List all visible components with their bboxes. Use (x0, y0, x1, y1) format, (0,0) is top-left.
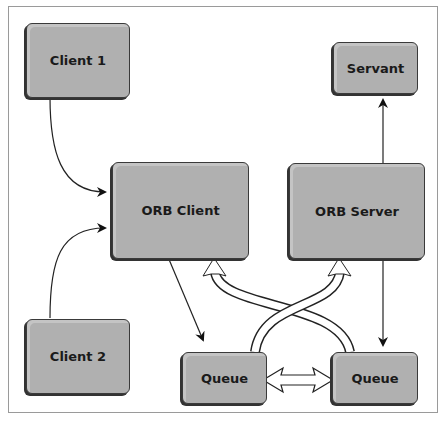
edge-client1-orbclient (50, 97, 105, 192)
node-servant[interactable]: Servant (333, 42, 418, 94)
node-client1[interactable]: Client 1 (26, 23, 130, 98)
edge-orbclient-queue (168, 257, 203, 340)
node-label: Queue (351, 371, 398, 386)
node-queue-right[interactable]: Queue (332, 352, 418, 404)
node-queue-left[interactable]: Queue (182, 352, 267, 404)
node-label: Queue (201, 371, 248, 386)
node-client2[interactable]: Client 2 (26, 319, 130, 394)
node-orb-server[interactable]: ORB Server (289, 163, 425, 259)
node-label: Client 2 (50, 349, 106, 364)
node-label: ORB Client (141, 203, 219, 218)
node-orb-client[interactable]: ORB Client (112, 162, 249, 259)
hollow-double-arrow-queues (263, 368, 333, 392)
node-label: Client 1 (50, 53, 106, 68)
node-label: ORB Server (315, 204, 399, 219)
edge-client2-orbclient (50, 228, 105, 318)
node-label: Servant (347, 61, 404, 76)
hollow-arrow-queue-to-orbclient (203, 258, 350, 352)
